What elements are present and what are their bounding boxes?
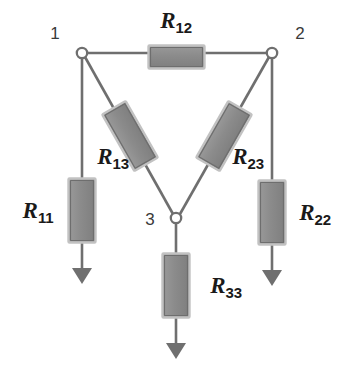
resistor-label-R33: R33 (210, 274, 242, 300)
resistor-label-R11-base: R (23, 198, 38, 223)
resistor-label-R22: R22 (299, 201, 331, 227)
resistor-label-R11: R11 (23, 199, 54, 225)
resistor-label-R12-subscript: 12 (176, 19, 192, 36)
resistor-label-R11-subscript: 11 (38, 209, 53, 226)
circuit-diagram: 1 2 3 R12 R13 R23 R11 R22 R33 (0, 0, 350, 374)
resistor-R12-body (149, 46, 205, 69)
resistor-label-R12: R12 (160, 9, 192, 35)
node-3-circle[interactable] (171, 213, 181, 223)
resistor-label-R23: R23 (232, 145, 264, 171)
resistor-R33-body (163, 254, 190, 318)
node-circles (77, 48, 277, 223)
resistor-label-R22-subscript: 22 (315, 211, 331, 228)
resistor-R22-body (259, 181, 286, 245)
node-1-circle[interactable] (77, 48, 87, 58)
node-2-circle[interactable] (267, 48, 277, 58)
resistor-label-R22-base: R (299, 200, 314, 225)
resistor-R33 (163, 254, 190, 318)
resistor-label-R13: R13 (97, 145, 129, 171)
resistor-R22 (259, 181, 286, 245)
resistor-label-R33-subscript: 33 (226, 284, 242, 301)
node-label-3: 3 (145, 211, 154, 228)
resistor-label-R13-base: R (97, 144, 112, 169)
arrow-R22-head (262, 270, 282, 286)
circuit-svg (0, 0, 350, 374)
resistor-label-R12-base: R (160, 8, 175, 33)
resistor-R11 (69, 179, 96, 243)
node-label-2: 2 (295, 25, 304, 42)
arrow-R33-head (166, 343, 186, 359)
arrow-R11-head (72, 268, 92, 284)
resistor-label-R13-subscript: 13 (113, 155, 129, 172)
resistor-R11-body (69, 179, 96, 243)
resistor-label-R33-base: R (210, 273, 225, 298)
resistor-label-R23-subscript: 23 (248, 155, 264, 172)
node-label-1: 1 (50, 25, 59, 42)
resistor-R12 (149, 46, 205, 69)
resistor-label-R23-base: R (232, 144, 247, 169)
